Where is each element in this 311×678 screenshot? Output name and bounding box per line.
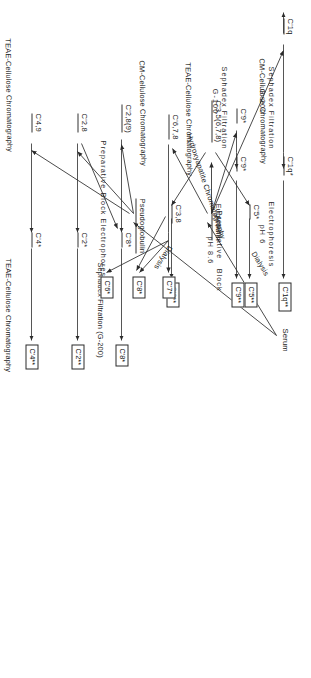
node-c2-8-9: C'2,8(9) — [121, 104, 131, 132]
process-sephadex-g200-top: Sephadex Filtration G-200 — [257, 66, 275, 136]
product-box-c8-d-upper: C'8* — [132, 276, 145, 298]
node-c9-star-2: C'9* — [236, 156, 246, 171]
node-c4-9: C'4,9 — [31, 113, 41, 132]
product-box-c8-d-lower: C'8* — [115, 344, 128, 366]
node-c2-star: C'2* — [77, 232, 87, 247]
figure-canvas: Serum Euglobulin Pseudoglobulin C'1q C'9… — [0, 0, 311, 678]
node-c4-star: C'4* — [31, 232, 41, 247]
node-c678: C'6,7,8 — [168, 114, 178, 139]
rotated-diagram: Serum Euglobulin Pseudoglobulin C'1q C'9… — [0, 0, 311, 678]
node-c2-8: C'2,8 — [77, 113, 87, 132]
product-box-c5-dd: C'5** — [244, 282, 257, 307]
process-cm-cellulose-lower: CM-Cellulose Chromatography — [138, 60, 147, 166]
product-box-c6-d: C'6* — [100, 276, 113, 298]
process-teae-cellulose-upper: TEAE-Cellulose Chromatography — [184, 62, 193, 176]
product-box-c9-dd: C'9** — [231, 282, 244, 307]
process-teae-cellulose-lower: TEAE-Cellulose Chromatography — [4, 38, 13, 152]
process-sephadex-g100: Sephadex Filtration G-100 — [210, 66, 228, 136]
product-box-c2-dd: C'2** — [71, 344, 84, 369]
process-electrophoresis-ph6: Electrophoresis pH 6 — [257, 196, 275, 272]
node-c1q-star: C'1q* — [283, 156, 293, 175]
process-prep-block-electrophoresis: Preparative Block Electrophoresis — [98, 140, 107, 280]
node-c1q: C'1q — [283, 18, 293, 34]
node-c8-star: C'8* — [121, 232, 131, 247]
node-serum: Serum — [280, 328, 288, 351]
process-teae-cellulose-bottom: TEAE-Cellulose Chromatography — [4, 258, 11, 372]
node-c9-star: C'9* — [236, 108, 246, 123]
product-box-c7-d: C'7* — [162, 276, 175, 298]
process-prep-block-ph86: Preparative Block pH 8.6 — [205, 210, 223, 290]
node-c3-8: C'3,8 — [171, 204, 181, 223]
product-box-c4-dd: C'4** — [25, 344, 38, 369]
product-box-c1q-dd: C'1q** — [278, 282, 291, 311]
node-pseudoglobulin: Pseudoglobulin — [135, 198, 145, 253]
